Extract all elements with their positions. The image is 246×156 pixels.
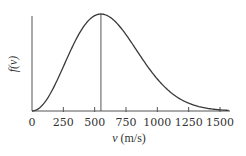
x-tick-label: 1500: [206, 116, 234, 129]
x-tick-label: 1250: [175, 116, 203, 129]
x-tick-label: 250: [53, 116, 74, 129]
x-axis-label-var: v: [112, 131, 118, 145]
x-tick-label: 750: [116, 116, 137, 129]
chart: 0250500750100012501500 f(v) v (m/s): [0, 0, 246, 156]
distribution-curve: [32, 14, 229, 111]
x-tick-label: 1000: [143, 116, 171, 129]
x-axis-label-unit: (m/s): [120, 131, 145, 145]
y-axis-label: f(v): [6, 56, 20, 73]
x-ticks: 0250500750100012501500: [29, 107, 235, 129]
x-axis-label: v (m/s): [112, 131, 146, 145]
x-tick-label: 0: [29, 116, 36, 129]
x-tick-label: 500: [84, 116, 105, 129]
